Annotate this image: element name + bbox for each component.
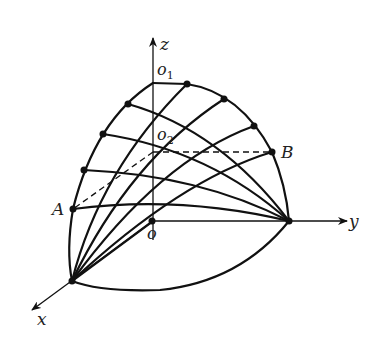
point-B: [269, 149, 276, 156]
label-o1: o1: [157, 60, 174, 82]
label-origin: o: [147, 224, 157, 243]
label-x: x: [37, 309, 47, 329]
label-y: y: [348, 211, 359, 231]
surface-grid: [69, 83, 289, 290]
point-y: [286, 218, 293, 225]
label-B: B: [280, 142, 294, 162]
label-A: A: [50, 199, 64, 219]
point-x: [69, 278, 76, 285]
label-o2: o2: [157, 125, 174, 147]
surface-diagram: z y x o o1 o2 A B: [0, 0, 383, 344]
point-A: [70, 206, 77, 213]
label-z: z: [159, 34, 170, 54]
